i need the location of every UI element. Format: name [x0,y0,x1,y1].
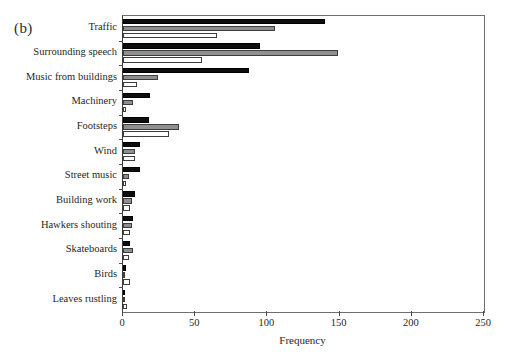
y-tick-mark [119,238,123,239]
bar-group [123,139,484,164]
y-tick-label: Leaves rustling [53,294,117,305]
bar-gray [123,297,125,302]
bar-group [123,65,484,90]
x-tick-label: 0 [119,317,124,328]
x-tick-mark [339,311,340,316]
bar-white [123,33,217,38]
y-tick-mark [119,263,123,264]
y-tick-mark [119,189,123,190]
y-tick-label: Machinery [72,96,117,107]
bar-black [123,241,130,246]
bar-gray [123,198,132,203]
y-tick-mark [119,164,123,165]
y-tick-label: Hawkers shouting [41,220,117,231]
bar-group [123,115,484,140]
bar-white [123,230,130,235]
y-tick-mark [119,139,123,140]
bar-black [123,265,126,270]
bar-white [123,304,127,309]
bar-black [123,191,135,196]
bar-group [123,238,484,263]
plot-area [122,15,485,313]
x-tick-label: 150 [331,317,347,328]
bar-white [123,279,130,284]
bar-white [123,156,135,161]
bar-white [123,181,126,186]
bar-group [123,41,484,66]
bar-white [123,57,202,62]
x-tick-label: 100 [259,317,275,328]
bar-black [123,93,150,98]
bar-white [123,255,129,260]
bar-group [123,263,484,288]
y-tick-mark [119,213,123,214]
bar-group [123,213,484,238]
bar-white [123,82,137,87]
bar-gray [123,272,125,277]
bar-gray [123,75,158,80]
bar-gray [123,174,129,179]
bar-black [123,19,325,24]
bar-gray [123,149,135,154]
bar-black [123,167,140,172]
y-tick-label: Wind [94,146,117,157]
y-tick-label: Surrounding speech [33,47,117,58]
bar-black [123,68,249,73]
y-tick-label: Street music [65,170,117,181]
y-tick-mark [119,90,123,91]
y-tick-mark [119,287,123,288]
x-tick-mark [194,311,195,316]
bar-white [123,205,130,210]
bar-group [123,287,484,312]
x-tick-mark [411,311,412,316]
bar-group [123,16,484,41]
bar-gray [123,100,133,105]
bar-group [123,164,484,189]
y-tick-label: Building work [56,195,117,206]
bar-white [123,131,169,136]
x-axis-title: Frequency [122,334,483,346]
x-tick-label: 200 [403,317,419,328]
x-tick-label: 50 [189,317,200,328]
x-tick-mark [266,311,267,316]
y-tick-mark [119,65,123,66]
y-tick-label: Traffic [88,22,117,33]
y-tick-label: Footsteps [77,121,117,132]
bar-group [123,189,484,214]
y-tick-label: Birds [94,269,117,280]
bar-black [123,43,260,48]
bar-group [123,90,484,115]
x-tick-label: 250 [475,317,491,328]
bar-gray [123,50,338,55]
figure-panel-b: (b) TrafficSurrounding speechMusic from … [0,0,507,356]
bar-black [123,142,140,147]
bar-gray [123,248,133,253]
bar-gray [123,223,132,228]
bar-black [123,117,149,122]
y-axis-category-labels: TrafficSurrounding speechMusic from buil… [0,15,117,311]
y-tick-mark [119,41,123,42]
y-tick-label: Skateboards [66,244,117,255]
y-tick-mark [119,115,123,116]
bar-gray [123,124,179,129]
bar-black [123,216,133,221]
bar-gray [123,26,275,31]
x-axis-ticks: 050100150200250 [122,311,483,317]
x-tick-mark [483,311,484,316]
bar-black [123,290,125,295]
bar-white [123,107,126,112]
x-tick-mark [122,311,123,316]
y-tick-label: Music from buildings [26,72,117,83]
